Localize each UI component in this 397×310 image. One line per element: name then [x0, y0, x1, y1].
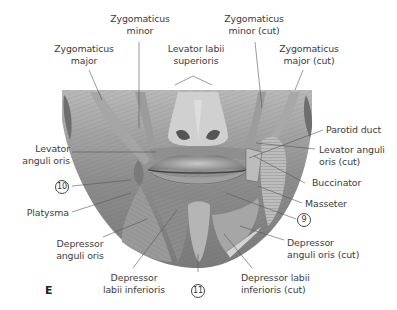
label-line: inferioris (cut)	[241, 284, 310, 296]
label-line: Depressor	[94, 272, 174, 284]
label-line: Levator	[18, 143, 70, 155]
label-zygomaticus-major-cut: Zygomaticus major (cut)	[275, 43, 343, 66]
callout-11: 11	[191, 284, 205, 298]
label-line: anguli oris	[18, 155, 70, 167]
callout-9: 9	[297, 213, 311, 227]
label-line: anguli oris	[50, 250, 110, 262]
label-line: Depressor	[287, 237, 359, 249]
label-line: major	[54, 55, 114, 67]
label-parotid-duct: Parotid duct	[326, 124, 381, 136]
label-levator-labii-superioris: Levator labii superioris	[160, 43, 232, 66]
label-levator-anguli-oris: Levator anguli oris	[18, 143, 70, 166]
label-buccinator: Buccinator	[312, 177, 361, 189]
label-depressor-anguli-oris-cut: Depressor anguli oris (cut)	[287, 237, 359, 260]
label-line: Levator labii	[160, 43, 232, 55]
label-line: anguli oris (cut)	[287, 249, 359, 261]
label-line: Zygomaticus	[275, 43, 343, 55]
anatomy-figure: Zygomaticus minor Zygomaticus major Leva…	[0, 0, 397, 310]
label-line: labii inferioris	[94, 284, 174, 296]
label-depressor-labii-inferioris-cut: Depressor labii inferioris (cut)	[241, 272, 310, 295]
label-line: Zygomaticus	[110, 13, 170, 25]
label-depressor-anguli-oris: Depressor anguli oris	[50, 238, 110, 261]
callout-10: 10	[55, 180, 69, 194]
label-line: Depressor	[50, 238, 110, 250]
label-line: minor	[110, 25, 170, 37]
label-line: Levator anguli	[319, 144, 385, 156]
label-line: oris (cut)	[319, 156, 385, 168]
label-line: Zygomaticus	[220, 13, 288, 25]
label-zygomaticus-major: Zygomaticus major	[54, 43, 114, 66]
label-line: superioris	[160, 55, 232, 67]
label-line: minor (cut)	[220, 25, 288, 37]
label-zygomaticus-minor-cut: Zygomaticus minor (cut)	[220, 13, 288, 36]
label-levator-anguli-oris-cut: Levator anguli oris (cut)	[319, 144, 385, 167]
label-line: major (cut)	[275, 55, 343, 67]
label-masseter: Masseter	[305, 198, 347, 210]
label-platysma: Platysma	[26, 207, 69, 219]
panel-letter: E	[45, 284, 53, 297]
label-line: Depressor labii	[241, 272, 310, 284]
label-line: Zygomaticus	[54, 43, 114, 55]
label-zygomaticus-minor: Zygomaticus minor	[110, 13, 170, 36]
label-depressor-labii-inferioris: Depressor labii inferioris	[94, 272, 174, 295]
